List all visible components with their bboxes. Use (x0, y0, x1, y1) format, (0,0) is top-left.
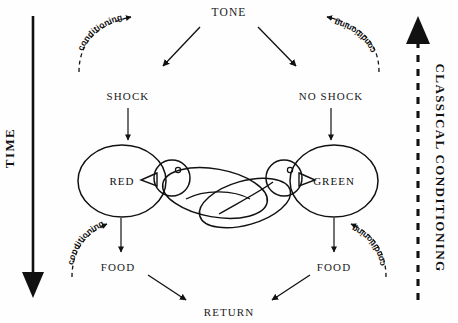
node-label-green: GREEN (313, 175, 355, 187)
node-label-food-right: FOOD (317, 262, 351, 273)
conditioning-arc-top-right: conditioning (327, 17, 379, 72)
pigeon-right-body (194, 169, 296, 237)
edge-food-left-to-return (148, 275, 186, 300)
pigeon-left-head (154, 160, 190, 196)
edge-tone-to-shock (163, 27, 200, 66)
conditioning-arc-label: conditioning (350, 223, 387, 267)
diagram-canvas: conditioning conditioning conditioning c… (0, 0, 458, 323)
conditioning-arc-top-left: conditioning (75, 12, 131, 72)
node-label-tone: TONE (212, 7, 247, 19)
conditioning-arc-label: conditioning (75, 12, 123, 52)
conditioning-arc-label: conditioning (65, 218, 105, 266)
conditioning-arc-label: conditioning (333, 17, 377, 54)
node-label-red: RED (110, 175, 135, 187)
edge-tone-to-no-shock (258, 27, 296, 66)
conditioning-arc-bottom-right: conditioning (350, 223, 387, 277)
node-label-no-shock: NO SHOCK (299, 91, 364, 102)
pigeon-left-wing (186, 192, 250, 199)
time-axis-label: TIME (2, 128, 18, 168)
node-label-return: RETURN (204, 307, 255, 318)
classical-conditioning-axis-label: CLASSICAL CONDITIONING (432, 64, 448, 273)
edge-food-right-to-return (272, 275, 310, 300)
node-label-shock: SHOCK (107, 91, 150, 102)
classical-conditioning-diagram: conditioning conditioning conditioning c… (0, 0, 458, 323)
pigeon-illustration (141, 160, 315, 237)
classical-conditioning-axis (406, 16, 430, 300)
time-axis (22, 16, 44, 298)
node-label-food-left: FOOD (101, 262, 135, 273)
